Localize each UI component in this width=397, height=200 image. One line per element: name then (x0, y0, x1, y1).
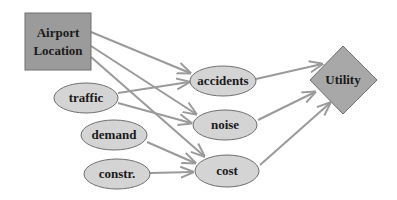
edge-constr-cost (150, 172, 193, 173)
edge-demand-cost (147, 142, 195, 163)
node-label: Utility (325, 72, 361, 87)
node-label: accidents (197, 73, 248, 88)
node-accidents: accidents (190, 66, 256, 96)
node-label: Location (33, 43, 83, 58)
node-label: noise (211, 117, 239, 132)
node-constr: constr. (84, 159, 150, 189)
edge-accidents-utility (256, 64, 322, 79)
node-label: Airport (37, 25, 80, 40)
edge-traffic-accidents (118, 82, 189, 93)
node-traffic: traffic (54, 83, 118, 113)
node-airport-location: Airport Location (25, 13, 91, 70)
node-demand: demand (81, 120, 147, 150)
node-label: constr. (99, 166, 136, 181)
node-label: demand (92, 127, 138, 142)
edge-traffic-noise (118, 103, 191, 123)
node-label: cost (216, 163, 238, 178)
edges (91, 32, 330, 173)
edge-cost-utility (260, 103, 330, 165)
edge-airport-accidents (91, 32, 190, 73)
node-noise: noise (193, 110, 257, 140)
node-cost: cost (195, 155, 259, 187)
edge-noise-utility (258, 92, 315, 120)
node-utility: Utility (310, 46, 377, 114)
influence-diagram: Airport Location traffic demand constr. … (0, 0, 397, 200)
node-label: traffic (69, 90, 104, 105)
